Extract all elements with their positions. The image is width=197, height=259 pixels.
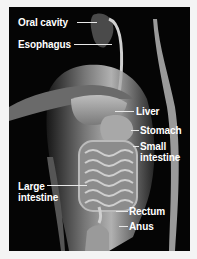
label-rectum: Rectum: [129, 206, 165, 217]
intestines-organ: [79, 141, 137, 211]
leader-line-small-intestine: [133, 146, 139, 147]
label-large-intestine-line1: Large: [18, 181, 45, 192]
label-anus: Anus: [129, 221, 154, 232]
label-small-intestine-line1: Small: [140, 141, 166, 152]
leader-line-oral-cavity: [77, 22, 97, 23]
diagram-frame: Oral cavity Esophagus Liver Stomach Smal…: [9, 7, 190, 251]
leader-line-rectum: [116, 211, 128, 212]
leader-line-large-intestine: [47, 185, 87, 186]
leader-line-anus: [119, 226, 128, 227]
leader-line-liver: [115, 111, 134, 112]
label-large-intestine-line2: intestine: [18, 192, 58, 203]
leader-line-esophagus: [74, 44, 112, 45]
label-stomach: Stomach: [140, 125, 182, 136]
label-liver: Liver: [136, 106, 159, 117]
label-oral-cavity: Oral cavity: [18, 17, 68, 28]
label-esophagus: Esophagus: [18, 39, 71, 50]
label-small-intestine-line2: intestine: [140, 152, 180, 163]
rectum-organ: [99, 207, 101, 223]
leader-line-stomach: [131, 130, 139, 131]
